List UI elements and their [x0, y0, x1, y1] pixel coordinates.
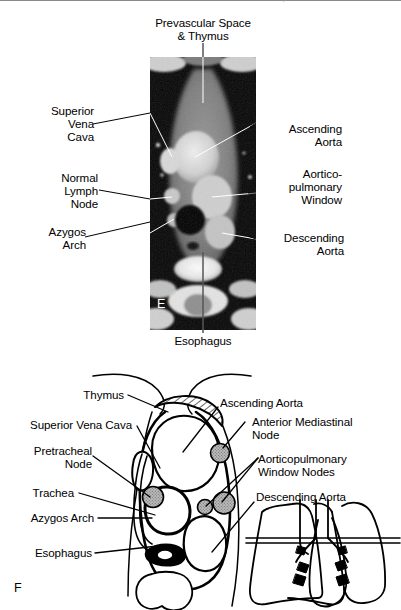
- ct-label-esophagus: Esophagus: [153, 334, 253, 347]
- ct-label-normal-lymph-node: Normal Lymph Node: [10, 171, 98, 211]
- running-head: Mediastinum and Hilum: Normal Anatomy: [0, 0, 401, 9]
- node-anterior-mediastinal: [211, 444, 230, 463]
- ct-label-superior-vena-cava: Superior Vena Cava: [10, 104, 94, 144]
- figure-mediastinum: Mediastinum and Hilum: Normal Anatomy: [0, 0, 401, 610]
- node-pretracheal: [143, 487, 164, 508]
- ct-image: [150, 57, 256, 330]
- diagram-label-thymus: Thymus: [24, 388, 124, 401]
- ct-label-descending-aorta: Descending Aorta: [246, 231, 344, 257]
- diagram-label-azygos-arch: Azygos Arch: [4, 511, 94, 524]
- diagram-label-anterior-mediastinal-node: Anterior Mediastinal Node: [252, 415, 401, 441]
- ct-label-azygos-arch: Azygos Arch: [10, 225, 86, 251]
- diagram-label-esophagus: Esophagus: [14, 546, 92, 559]
- running-head-text: Mediastinum and Hilum: Normal Anatomy: [150, 0, 401, 2]
- diagram-label-pretracheal-node: Pretracheal Node: [6, 444, 92, 470]
- ct-label-ascending-aorta: Ascending Aorta: [246, 122, 342, 148]
- node-ap-large: [213, 492, 235, 514]
- ct-label-prevascular-space: Prevascular Space & Thymus: [122, 16, 284, 42]
- diagram-label-ascending-aorta: Ascending Aorta: [220, 396, 380, 409]
- ct-label-aorticopulmonary-window: Aortico- pulmonary Window: [246, 167, 342, 207]
- panel-letter-f: F: [14, 581, 22, 595]
- diagram-label-trachea: Trachea: [8, 486, 74, 499]
- panel-letter-e: E: [157, 297, 165, 311]
- diagram-label-superior-vena-cava: Superior Vena Cava: [0, 418, 132, 431]
- diagram-label-descending-aorta: Descending Aorta: [256, 490, 401, 503]
- thorax-inset: [246, 500, 400, 606]
- diagram-label-aorticopulmonary-window-nodes: Aorticopulmonary Window Nodes: [258, 452, 401, 478]
